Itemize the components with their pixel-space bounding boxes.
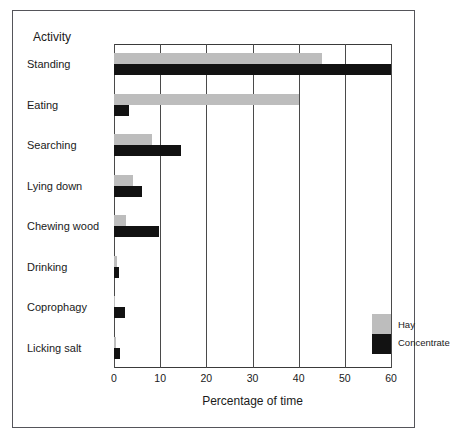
legend-label-hay: Hay xyxy=(398,319,415,330)
bar-searching-concentrate xyxy=(114,145,181,156)
category-label-eating: Eating xyxy=(27,99,58,111)
category-label-drinking: Drinking xyxy=(27,261,67,273)
gridline-0 xyxy=(114,44,115,368)
x-tick-label-10: 10 xyxy=(154,372,166,384)
x-tick-label-30: 30 xyxy=(247,372,259,384)
gridline-50 xyxy=(345,44,346,368)
bar-searching-hay xyxy=(114,134,152,145)
gridline-20 xyxy=(206,44,207,368)
category-label-coprophagy: Coprophagy xyxy=(27,301,87,313)
bar-standing-concentrate xyxy=(114,64,391,75)
bar-drinking-concentrate xyxy=(114,267,119,278)
legend-swatch-concentrate xyxy=(372,334,391,354)
gridline-40 xyxy=(299,44,300,368)
legend-label-concentrate: Concentrate xyxy=(398,337,450,348)
category-label-chewing-wood: Chewing wood xyxy=(27,220,99,232)
x-tick-label-60: 60 xyxy=(385,372,397,384)
bar-chewing-wood-hay xyxy=(114,215,126,226)
category-label-searching: Searching xyxy=(27,139,77,151)
category-label-standing: Standing xyxy=(27,58,70,70)
bar-lying-down-hay xyxy=(114,175,133,186)
bar-licking-salt-concentrate xyxy=(114,348,120,359)
bar-eating-concentrate xyxy=(114,105,129,116)
bar-lying-down-concentrate xyxy=(114,186,142,197)
x-tick-label-40: 40 xyxy=(293,372,305,384)
gridline-10 xyxy=(160,44,161,368)
legend-swatch-hay xyxy=(372,314,391,334)
x-axis-title: Percentage of time xyxy=(114,394,391,408)
bar-standing-hay xyxy=(114,53,322,64)
bar-coprophagy-hay xyxy=(114,296,115,307)
category-label-licking-salt: Licking salt xyxy=(27,342,81,354)
x-tick-label-50: 50 xyxy=(339,372,351,384)
x-tick-label-0: 0 xyxy=(111,372,117,384)
bar-chewing-wood-concentrate xyxy=(114,226,159,237)
x-tick-label-20: 20 xyxy=(200,372,212,384)
gridline-30 xyxy=(253,44,254,368)
chart-legend: Hay Concentrate xyxy=(372,314,454,360)
bar-drinking-hay xyxy=(114,256,117,267)
category-axis-header: Activity xyxy=(33,30,71,44)
category-label-lying-down: Lying down xyxy=(27,180,82,192)
bar-licking-salt-hay xyxy=(114,337,116,348)
bar-coprophagy-concentrate xyxy=(114,307,125,318)
bar-eating-hay xyxy=(114,94,299,105)
plot-area: Hay Concentrate xyxy=(114,44,391,368)
